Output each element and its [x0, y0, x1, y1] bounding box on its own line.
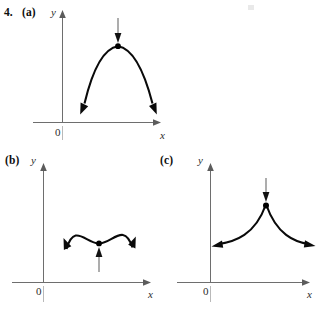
panel-a-x-axis-arrowhead [153, 119, 161, 126]
panel-c-curve-left-arrowhead [212, 241, 224, 248]
panel-b-x-axis-arrowhead [143, 279, 151, 286]
panel-b-pointer-arrowhead [96, 247, 103, 257]
panel-a-plot [0, 0, 170, 150]
panel-b-x-axis-label: x [148, 288, 153, 300]
panel-c: (c) y x 0 [155, 150, 323, 311]
panel-c-curve-right-arrowhead [304, 240, 316, 247]
panel-c-x-axis-label: x [307, 288, 312, 300]
panel-a-curve-left-arrowhead [80, 103, 88, 115]
panel-c-cusp-point-dot [263, 203, 269, 209]
panel-a-label: (a) [22, 6, 36, 18]
panel-a-number: 4. [4, 6, 13, 18]
panel-a-y-axis-arrowhead [59, 10, 66, 18]
panel-b-y-axis-arrowhead [40, 163, 47, 171]
panel-a: 4. (a) y x 0 [0, 0, 170, 150]
panel-a-maximum-point-dot [115, 43, 121, 49]
panel-c-pointer-arrowhead [263, 192, 270, 202]
panel-c-y-axis-label: y [198, 154, 203, 166]
panel-a-curve-right-arrowhead [149, 103, 157, 115]
panel-b-y-axis-label: y [31, 154, 36, 166]
panel-b-minimum-point-dot [96, 241, 102, 247]
panel-a-origin-label: 0 [55, 126, 61, 138]
panel-c-x-axis-arrowhead [302, 279, 310, 286]
panel-b-plot [0, 150, 170, 311]
panel-a-y-axis-label: y [51, 6, 56, 18]
panel-c-y-axis-arrowhead [207, 163, 214, 171]
panel-c-origin-label: 0 [203, 285, 209, 297]
panel-b-label: (b) [5, 154, 19, 166]
panel-c-curve-left-branch [219, 206, 266, 245]
panel-b-origin-label: 0 [36, 285, 42, 297]
panel-c-label: (c) [160, 154, 173, 166]
scan-artifact-speck [248, 5, 254, 10]
panel-a-x-axis-label: x [160, 129, 165, 141]
panel-c-plot [155, 150, 323, 311]
panel-b-curve-right-arrowhead [128, 237, 136, 249]
panel-a-curve [85, 46, 153, 103]
panel-a-pointer-arrowhead [115, 33, 122, 43]
panel-c-curve-right-branch [267, 206, 309, 245]
panel-b: (b) y x 0 [0, 150, 170, 311]
